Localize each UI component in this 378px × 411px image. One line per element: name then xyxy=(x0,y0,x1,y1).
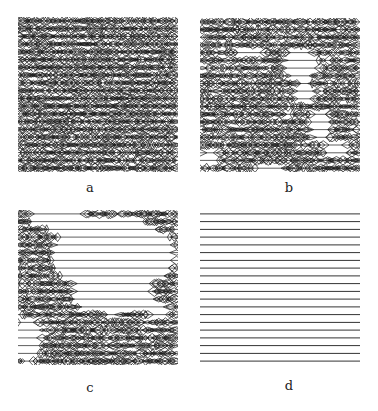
panel-label-b: b xyxy=(279,180,299,195)
panel-d xyxy=(200,210,360,365)
panel-d-plot xyxy=(200,210,360,365)
panel-c-plot xyxy=(18,210,178,365)
panel-a-plot xyxy=(18,17,178,172)
panel-c xyxy=(18,210,178,365)
panel-b xyxy=(200,18,360,172)
panel-label-d: d xyxy=(279,378,299,393)
panel-label-c: c xyxy=(80,380,100,395)
panel-b-plot xyxy=(200,18,360,172)
panel-a xyxy=(18,17,178,172)
panel-label-a: a xyxy=(80,180,100,195)
